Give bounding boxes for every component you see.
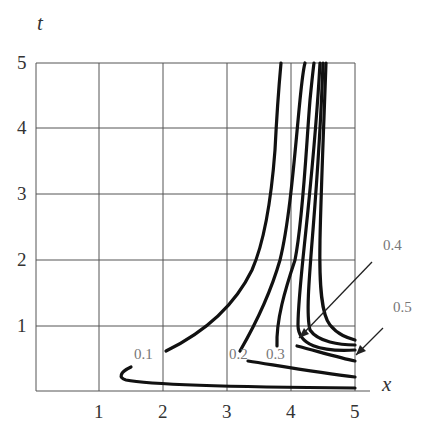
- y-tick-1: 1: [17, 315, 27, 336]
- x-tick-3: 3: [222, 401, 232, 422]
- contour-chart: t x 5 4 3 2 1 1 2 3 4 5 0.1 0.2 0.3 0.4 …: [0, 0, 429, 432]
- curve-0.2-upper: [240, 63, 305, 351]
- curve-label-0.3: 0.3: [266, 346, 285, 362]
- x-tick-2: 2: [158, 401, 168, 422]
- y-axis-label: t: [37, 11, 44, 35]
- curve-label-0.5: 0.5: [393, 299, 412, 315]
- y-tick-4: 4: [17, 117, 27, 138]
- y-tick-3: 3: [17, 183, 27, 204]
- curve-0.2-lower: [248, 361, 355, 377]
- curve-label-0.1: 0.1: [134, 346, 153, 362]
- x-axis-label: x: [381, 372, 392, 396]
- curve-0.1-lower: [121, 367, 355, 388]
- x-tick-1: 1: [94, 401, 104, 422]
- y-tick-5: 5: [17, 52, 27, 73]
- arrow-0.5: [356, 328, 383, 355]
- curve-0.45: [308, 63, 355, 345]
- y-tick-2: 2: [17, 249, 27, 270]
- x-tick-4: 4: [286, 401, 296, 422]
- curves: [121, 63, 355, 388]
- curve-label-0.2: 0.2: [229, 346, 248, 362]
- curve-label-0.4: 0.4: [383, 237, 402, 253]
- x-tick-5: 5: [350, 401, 360, 422]
